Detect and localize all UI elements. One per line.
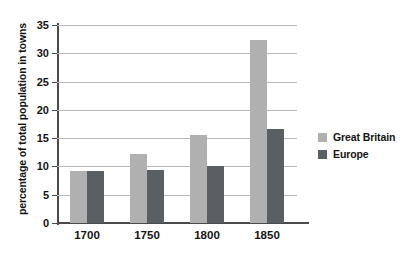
x-tick-label: 1750 <box>134 229 160 241</box>
y-tick-label: 0 <box>43 217 49 229</box>
bar-1750-great-britain <box>130 154 147 223</box>
y-tick-mark <box>52 82 57 83</box>
y-tick-label: 20 <box>37 104 49 116</box>
y-tick-mark <box>52 223 57 224</box>
y-tick-label: 15 <box>37 132 49 144</box>
x-tick-label: 1700 <box>74 229 100 241</box>
chart-legend: Great BritainEurope <box>318 131 395 165</box>
bar-1700-great-britain <box>70 171 87 223</box>
y-tick-mark <box>52 25 57 26</box>
bar-chart: percentage of total population in towns … <box>0 0 416 262</box>
legend-label: Europe <box>333 148 369 160</box>
x-tick-label: 1800 <box>194 229 220 241</box>
gridline <box>57 25 297 26</box>
y-axis-title: percentage of total population in towns <box>16 14 28 224</box>
bar-1800-great-britain <box>190 135 207 223</box>
y-tick-label: 25 <box>37 76 49 88</box>
bar-1850-europe <box>267 129 284 223</box>
legend-swatch-icon <box>318 133 327 142</box>
y-tick-label: 10 <box>37 160 49 172</box>
y-tick-label: 5 <box>43 189 49 201</box>
bar-1750-europe <box>147 170 164 223</box>
legend-item: Europe <box>318 148 395 160</box>
bar-1800-europe <box>207 166 224 223</box>
y-tick-label: 35 <box>37 19 49 31</box>
legend-swatch-icon <box>318 150 327 159</box>
bar-1850-great-britain <box>250 40 267 223</box>
y-tick-mark <box>52 166 57 167</box>
plot-area: 05101520253035 <box>57 25 297 223</box>
y-tick-label: 30 <box>37 47 49 59</box>
legend-label: Great Britain <box>333 131 395 143</box>
bar-1700-europe <box>87 171 104 223</box>
y-tick-mark <box>52 110 57 111</box>
y-tick-mark <box>52 138 57 139</box>
x-tick-label: 1850 <box>254 229 280 241</box>
y-tick-mark <box>52 53 57 54</box>
legend-item: Great Britain <box>318 131 395 143</box>
y-tick-mark <box>52 195 57 196</box>
